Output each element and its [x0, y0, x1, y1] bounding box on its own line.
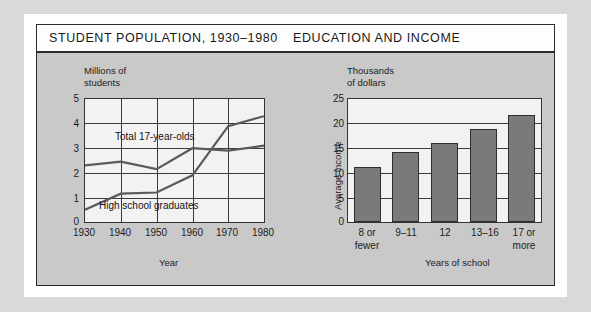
bar-ytick-15: 15	[324, 143, 344, 154]
bar-8-or-fewer	[354, 167, 381, 222]
line-ytick-0: 0	[63, 216, 79, 227]
bar-9-11	[392, 152, 419, 222]
bar-xtick-1-line1: 9–11	[387, 227, 425, 238]
line-xtick-1950: 1950	[139, 227, 173, 238]
line-series-label-total-17-year-olds: Total 17-year-olds	[115, 131, 194, 142]
bar-chart-plot-area	[347, 98, 542, 223]
bar-ytick-0: 0	[324, 216, 344, 227]
bar-ytick-25: 25	[324, 93, 344, 104]
line-chart-y-axis-caption-line1: Millions of	[84, 65, 126, 77]
line-series-label-high-school-graduates: High school graduates	[99, 200, 199, 211]
line-xtick-1940: 1940	[103, 227, 137, 238]
bar-chart-x-axis-title: Years of school	[425, 257, 490, 268]
bar-17-or-more	[508, 115, 535, 222]
bar-xtick-4-line2: more	[505, 240, 543, 251]
bar-xtick-0-line1: 8 or	[348, 227, 386, 238]
line-ytick-4: 4	[63, 118, 79, 129]
line-xtick-1960: 1960	[175, 227, 209, 238]
bar-ytick-5: 5	[324, 193, 344, 204]
line-ytick-2: 2	[63, 168, 79, 179]
line-ytick-3: 3	[63, 143, 79, 154]
bar-chart-y-axis-caption-line2: of dollars	[347, 77, 386, 89]
bar-xtick-3-line1: 13–16	[463, 227, 507, 238]
figure-root: STUDENT POPULATION, 1930–1980 EDUCATION …	[0, 0, 591, 312]
title-bar: STUDENT POPULATION, 1930–1980 EDUCATION …	[37, 25, 554, 53]
figure-panel: STUDENT POPULATION, 1930–1980 EDUCATION …	[36, 24, 555, 286]
bar-xtick-0-line2: fewer	[348, 240, 386, 251]
bar-xtick-4-line1: 17 or	[505, 227, 543, 238]
bar-xtick-2-line1: 12	[426, 227, 464, 238]
right-chart-title: EDUCATION AND INCOME	[293, 31, 460, 45]
line-series-total-17-year-olds	[85, 146, 264, 169]
left-chart-title: STUDENT POPULATION, 1930–1980	[49, 31, 278, 45]
bar-13-16	[470, 129, 497, 223]
bar-12	[431, 143, 458, 222]
line-ytick-5: 5	[63, 93, 79, 104]
line-ytick-1: 1	[63, 193, 79, 204]
line-chart-y-axis-caption-line2: students	[84, 77, 120, 89]
bar-chart-y-axis-caption-line1: Thousands	[347, 65, 394, 77]
bar-ytick-20: 20	[324, 118, 344, 129]
bar-ytick-10: 10	[324, 168, 344, 179]
line-xtick-1970: 1970	[210, 227, 244, 238]
line-xtick-1930: 1930	[67, 227, 101, 238]
line-xtick-1980: 1980	[246, 227, 280, 238]
line-chart-x-axis-title: Year	[159, 257, 178, 268]
